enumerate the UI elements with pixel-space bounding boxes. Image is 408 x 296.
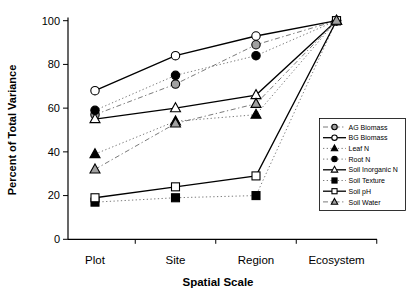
legend-marker-soil-ph <box>332 189 337 194</box>
y-tick-label: 20 <box>48 189 60 201</box>
series-line-soil-texture <box>95 21 337 202</box>
y-tick-label: 100 <box>42 15 60 27</box>
legend-marker-soil-texture <box>332 178 337 183</box>
chart-canvas: 020406080100PlotSiteRegionEcosystemAG Bi… <box>0 0 408 296</box>
point-root-n <box>252 51 260 59</box>
variance-line-chart-figure: 020406080100PlotSiteRegionEcosystemAG Bi… <box>0 0 408 296</box>
legend-box <box>320 119 406 211</box>
point-soil-ph <box>172 183 180 191</box>
x-axis-title: Spatial Scale <box>138 276 298 288</box>
series-line-soil-inorganic-n <box>95 21 337 119</box>
y-tick-label: 80 <box>48 58 60 70</box>
point-soil-texture <box>252 192 260 200</box>
legend-label-root-n: Root N <box>349 156 371 163</box>
series-line-ag-biomass <box>95 21 337 115</box>
y-tick-label: 60 <box>48 102 60 114</box>
point-bg-biomass <box>252 32 260 40</box>
series-line-root-n <box>95 21 337 111</box>
x-category-label-region: Region <box>238 254 274 266</box>
point-soil-ph <box>91 194 99 202</box>
y-tick-label: 40 <box>48 146 60 158</box>
legend-label-soil-inorganic-n: Soil Inorganic N <box>349 166 398 174</box>
legend-marker-root-n <box>332 156 337 161</box>
point-bg-biomass <box>91 86 99 94</box>
y-axis-title: Percent of Total Variance <box>6 50 20 210</box>
point-ag-biomass <box>171 80 179 88</box>
point-ag-biomass <box>252 41 260 49</box>
point-soil-texture <box>172 194 180 202</box>
legend-label-bg-biomass: BG Biomass <box>349 134 388 141</box>
legend-label-soil-ph: Soil pH <box>349 188 372 196</box>
x-category-label-site: Site <box>166 254 186 266</box>
legend-label-leaf-n: Leaf N <box>349 145 370 152</box>
series-line-soil-water <box>95 21 337 170</box>
point-leaf-n <box>251 109 261 118</box>
legend-label-ag-biomass: AG Biomass <box>349 124 388 131</box>
point-root-n <box>171 71 179 79</box>
legend-marker-bg-biomass <box>332 135 337 140</box>
point-soil-water <box>90 164 100 173</box>
series-line-leaf-n <box>95 21 337 154</box>
y-tick-label: 0 <box>54 233 60 245</box>
x-category-label-plot: Plot <box>85 254 106 266</box>
point-soil-ph <box>252 172 260 180</box>
x-category-label-ecosystem: Ecosystem <box>308 254 364 266</box>
legend-label-soil-texture: Soil Texture <box>349 177 386 184</box>
point-leaf-n <box>90 149 100 158</box>
point-bg-biomass <box>171 51 179 59</box>
series-line-soil-ph <box>95 21 337 198</box>
legend-marker-ag-biomass <box>332 124 337 129</box>
legend-label-soil-water: Soil Water <box>349 199 382 206</box>
